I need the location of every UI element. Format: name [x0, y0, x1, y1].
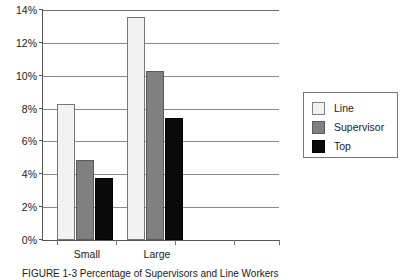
legend-item-supervisor[interactable]: Supervisor: [312, 118, 397, 136]
x-tick-label-small: Small: [74, 249, 100, 260]
y-tick-mark-8: [39, 108, 43, 109]
y-tick-mark-14: [39, 9, 43, 10]
y-tick-mark-2: [39, 206, 43, 207]
legend-label-supervisor: Supervisor: [334, 122, 384, 133]
y-tick-label-12: 12%: [16, 38, 37, 49]
x-tick-mark-2: [175, 240, 176, 245]
bar-large-top[interactable]: [165, 118, 183, 240]
bar-group-small: [57, 10, 117, 240]
bar-small-top[interactable]: [95, 178, 113, 240]
x-tick-mark-4: [279, 240, 280, 245]
bar-small-supervisor[interactable]: [76, 160, 94, 241]
legend-swatch-top-icon: [312, 140, 325, 153]
legend-swatch-line-icon: [312, 102, 325, 115]
y-tick-label-10: 10%: [16, 70, 37, 81]
y-tick-mark-4: [39, 173, 43, 174]
y-tick-label-4: 4%: [22, 169, 37, 180]
y-tick-mark-12: [39, 42, 43, 43]
y-tick-label-8: 8%: [22, 103, 37, 114]
bar-large-line[interactable]: [127, 17, 145, 240]
y-tick-label-14: 14%: [16, 5, 37, 16]
legend-swatch-supervisor-icon: [312, 121, 325, 134]
legend-item-top[interactable]: Top: [312, 137, 397, 155]
x-tick-mark-3: [234, 240, 235, 245]
figure-caption: FIGURE 1-3 Percentage of Supervisors and…: [22, 268, 408, 280]
y-tick-mark-10: [39, 75, 43, 76]
y-tick-label-6: 6%: [22, 136, 37, 147]
bar-group-large: [127, 10, 187, 240]
x-tick-mark-0: [57, 240, 58, 245]
y-tick-mark-6: [39, 140, 43, 141]
y-tick-label-0: 0%: [22, 235, 37, 246]
legend-label-line: Line: [334, 103, 354, 114]
y-tick-mark-0: [39, 239, 43, 240]
legend-item-line[interactable]: Line: [312, 99, 397, 117]
legend-label-top: Top: [334, 141, 351, 152]
x-tick-mark-1: [116, 240, 117, 245]
plot-area: 14% 12% 10% 8% 6% 4% 2% 0%: [42, 10, 279, 241]
bar-large-supervisor[interactable]: [146, 71, 164, 240]
legend: Line Supervisor Top: [303, 92, 398, 158]
x-tick-label-large: Large: [144, 249, 171, 260]
y-tick-label-2: 2%: [22, 202, 37, 213]
bar-small-line[interactable]: [57, 104, 75, 240]
